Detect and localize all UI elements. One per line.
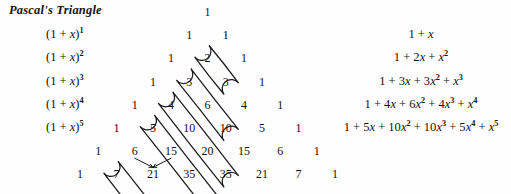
triangle-cell: 20 [202, 144, 214, 159]
triangle-cell: 1 [150, 74, 156, 89]
expansion-term: + [440, 74, 453, 88]
expansion-4: 1 + 4x + 6x2 + 4x3 + x4 [365, 97, 478, 112]
triangle-cell: 1 [332, 167, 338, 182]
triangle-cell: 15 [238, 144, 250, 159]
triangle-cell: 2 [205, 51, 211, 66]
triangle-cell: 4 [168, 97, 174, 112]
expansion-term: 1 + 4 [365, 97, 391, 111]
triangle-cell: 1 [205, 5, 211, 20]
expansion-term: + [425, 50, 438, 64]
triangle-cell: 10 [183, 121, 195, 136]
pascals-triangle-figure: Pascal's Triangle (1 + x)1(1 + x)2(1 + x… [0, 0, 511, 194]
triangle-cell: 1 [223, 28, 229, 43]
triangle-cell: 1 [259, 74, 265, 89]
expansion-exponent: 3 [459, 72, 463, 81]
expansion-term: + [475, 120, 488, 134]
triangle-cell: 1 [77, 167, 83, 182]
expansion-exponent: 5 [494, 119, 498, 128]
triangle-cell: 1 [241, 51, 247, 66]
expansion-term: 1 + 2 [394, 50, 420, 64]
triangle-cell: 6 [277, 144, 283, 159]
expansion-term: + 10 [375, 120, 401, 134]
triangle-cell: 6 [205, 97, 211, 112]
triangle-cell: 1 [132, 97, 138, 112]
triangle-cell: 35 [220, 167, 232, 182]
triangle-cell: 1 [95, 144, 101, 159]
expansion-5: 1 + 5x + 10x2 + 10x3 + 5x4 + x5 [344, 120, 499, 135]
triangle-cell: 21 [147, 167, 159, 182]
expansion-term: + 4 [425, 97, 445, 111]
triangle-cell: 7 [296, 167, 302, 182]
expansion-term: x [428, 27, 434, 41]
triangle-cell: 10 [220, 121, 232, 136]
triangle-cell: 6 [132, 144, 138, 159]
triangle-cell: 5 [150, 121, 156, 136]
triangle-cell: 15 [165, 144, 177, 159]
expansion-term: + 10 [411, 120, 437, 134]
expansion-term: + 6 [396, 97, 416, 111]
triangle-cell: 4 [241, 97, 247, 112]
expansion-term: + 5 [446, 120, 466, 134]
expansion-term: 1 + 3 [379, 74, 405, 88]
expansion-1: 1 + x [408, 27, 433, 42]
triangle-cell: 5 [259, 121, 265, 136]
expansion-term: 1 + 5 [344, 120, 370, 134]
triangle-cell: 35 [183, 167, 195, 182]
expansion-term: 1 + [408, 27, 428, 41]
triangle-cell: 1 [314, 144, 320, 159]
triangle-cell: 1 [296, 121, 302, 136]
expansion-exponent: 4 [473, 96, 477, 105]
triangle-cell: 1 [114, 121, 120, 136]
triangle-cell: 1 [277, 97, 283, 112]
expansion-term: + 3 [411, 74, 431, 88]
expansion-exponent: 2 [444, 49, 448, 58]
triangle-cell: 1 [186, 28, 192, 43]
triangle-cell: 21 [256, 167, 268, 182]
triangle-cell: 7 [114, 167, 120, 182]
triangle-cell: 3 [186, 74, 192, 89]
triangle-cell: 1 [168, 51, 174, 66]
expansion-3: 1 + 3x + 3x2 + x3 [379, 74, 463, 89]
triangle-cell: 3 [223, 74, 229, 89]
expansion-term: + [454, 97, 467, 111]
expansion-2: 1 + 2x + x2 [394, 50, 448, 65]
